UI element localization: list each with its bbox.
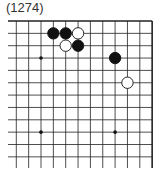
star-point	[113, 130, 117, 134]
go-board	[0, 0, 161, 172]
black-stone	[72, 40, 83, 51]
black-stone	[60, 28, 71, 39]
black-stone	[109, 52, 120, 63]
star-point	[39, 56, 43, 60]
white-stone	[122, 77, 133, 88]
white-stone	[60, 40, 71, 51]
star-point	[39, 130, 43, 134]
white-stone	[72, 28, 83, 39]
black-stone	[48, 28, 59, 39]
